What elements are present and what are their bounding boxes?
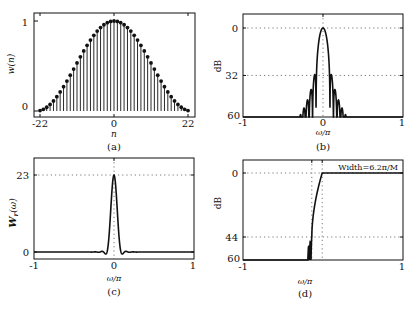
xtick-a-22: 22 — [182, 118, 195, 129]
panel-b: 0 32 60 -1 0 1 ω/π (b) dB — [213, 14, 405, 152]
panel-d: 0 44 60 -1 1 ω/π (d) dB Width=6.2π/M — [213, 160, 405, 299]
curve-b — [243, 28, 403, 117]
ytick-d-0: 0 — [232, 168, 238, 179]
ylabel-c: Wr(ω) — [7, 198, 20, 228]
ylabel-c-arg: (ω) — [8, 198, 18, 213]
ytick-d-44: 44 — [225, 232, 238, 243]
xtick-a-0: 0 — [111, 118, 117, 129]
ytick-b-0: 0 — [232, 23, 238, 34]
xtick-d-neg1: -1 — [238, 261, 248, 272]
xlabel-a: n — [111, 129, 117, 139]
xtick-b-neg1: -1 — [238, 117, 248, 128]
grid-c — [34, 158, 194, 259]
xtick-b-1: 1 — [399, 117, 405, 128]
figure: 1 0 -22 0 22 n (a) w(n) 0 32 60 -1 0 1 ω… — [0, 0, 414, 311]
xtick-d-1: 1 — [399, 261, 405, 272]
xlabel-c: ω/π — [107, 274, 122, 283]
xtick-a-neg22: -22 — [32, 118, 48, 129]
caption-d: (d) — [298, 288, 312, 299]
ylabel-d: dB — [213, 196, 223, 209]
axes-box-d — [243, 160, 403, 260]
ytick-c-23: 23 — [16, 170, 29, 181]
ytick-a-1: 1 — [22, 17, 28, 28]
xtick-c-1: 1 — [190, 260, 196, 271]
annotation-width: Width=6.2π/M — [338, 163, 398, 172]
caption-c: (c) — [107, 286, 121, 297]
stem-plot-a — [34, 13, 190, 117]
ytick-c-0: 0 — [23, 247, 29, 258]
ytick-b-32: 32 — [225, 70, 238, 81]
xtick-b-0: 0 — [320, 117, 326, 128]
xlabel-b: ω/π — [316, 128, 331, 137]
ylabel-a: w(n) — [6, 53, 16, 74]
ylabel-b: dB — [213, 59, 223, 72]
curve-d — [243, 173, 403, 260]
grid-d — [243, 160, 403, 260]
xlabel-d: ω/π — [298, 277, 313, 286]
xtick-c-neg1: -1 — [29, 260, 39, 271]
panel-c: 23 0 -1 0 1 ω/π (c) Wr(ω) — [7, 158, 196, 297]
svg-text:Wr(ω): Wr(ω) — [7, 198, 20, 228]
caption-b: (b) — [316, 141, 330, 152]
caption-a: (a) — [107, 141, 121, 152]
grid-b — [243, 14, 403, 117]
panel-a: 1 0 -22 0 22 n (a) w(n) — [6, 13, 195, 152]
xtick-c-0: 0 — [111, 260, 117, 271]
ytick-a-0: 0 — [22, 101, 28, 112]
